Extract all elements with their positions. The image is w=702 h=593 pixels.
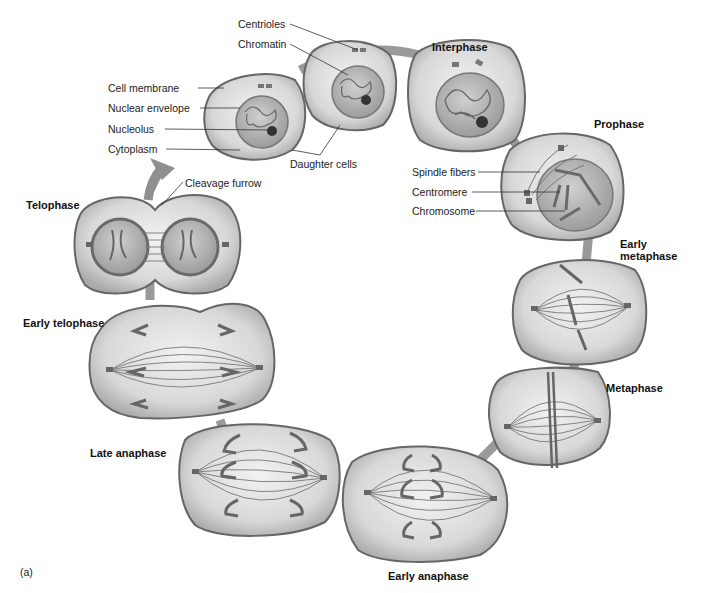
- label-cell-membrane: Cell membrane: [108, 82, 179, 94]
- phase-label-telophase: Telophase: [26, 199, 80, 212]
- daughter-cell-left: [204, 74, 305, 160]
- metaphase-cell: [489, 368, 610, 468]
- phase-label-early-metaphase-line2: metaphase: [620, 250, 677, 263]
- mitosis-diagram: Interphase Prophase Early metaphase Meta…: [0, 0, 702, 593]
- early-metaphase-cell: [513, 260, 647, 365]
- panel-label: (a): [20, 566, 33, 578]
- label-spindle-fibers: Spindle fibers: [412, 166, 476, 178]
- label-daughter-cells: Daughter cells: [290, 158, 357, 170]
- telophase-cell: [75, 195, 241, 294]
- label-nucleolus: Nucleolus: [108, 123, 154, 135]
- cell-cycle-illustration: [0, 0, 702, 593]
- phase-label-late-anaphase: Late anaphase: [90, 447, 166, 460]
- phase-label-prophase: Prophase: [594, 118, 644, 131]
- prophase-cell: [501, 134, 623, 241]
- interphase-cell: [408, 40, 525, 151]
- phase-label-metaphase: Metaphase: [606, 382, 663, 395]
- label-nuclear-envelope: Nuclear envelope: [108, 102, 190, 114]
- label-cleavage-furrow: Cleavage furrow: [185, 177, 261, 189]
- label-centrioles: Centrioles: [238, 18, 285, 30]
- late-anaphase-cell: [179, 424, 339, 536]
- phase-label-early-telophase: Early telophase: [23, 317, 104, 330]
- daughter-cell-right: [304, 41, 397, 130]
- phase-label-early-anaphase: Early anaphase: [388, 570, 469, 583]
- label-cytoplasm: Cytoplasm: [108, 143, 158, 155]
- early-telophase-cell: [89, 304, 274, 419]
- label-centromere: Centromere: [412, 186, 467, 198]
- label-chromosome: Chromosome: [412, 205, 475, 217]
- label-chromatin: Chromatin: [238, 38, 286, 50]
- early-anaphase-cell: [343, 446, 507, 562]
- phase-label-interphase: Interphase: [432, 41, 488, 54]
